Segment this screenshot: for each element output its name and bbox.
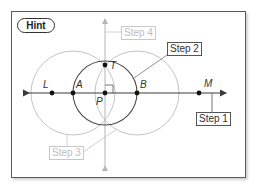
point-a (71, 91, 76, 96)
point-p (103, 91, 108, 96)
hint-button[interactable]: Hint (17, 18, 55, 33)
label-b: B (140, 80, 147, 90)
point-m (197, 91, 202, 96)
step4-label: Step 4 (121, 26, 156, 40)
label-a: A (76, 80, 83, 90)
point-t (103, 63, 108, 68)
point-l (50, 91, 55, 96)
leader-step2 (134, 55, 167, 78)
step2-label: Step 2 (167, 42, 202, 56)
label-m: M (204, 79, 212, 89)
label-t: T (110, 61, 116, 71)
label-l: L (43, 80, 49, 90)
step3-label: Step 3 (49, 146, 84, 160)
step1-label: Step 1 (196, 112, 231, 126)
label-p: P (96, 97, 103, 107)
point-b (135, 91, 140, 96)
